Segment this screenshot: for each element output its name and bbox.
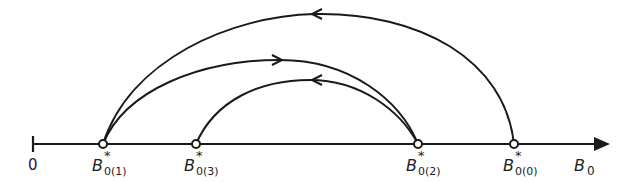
- svg-text:B: B: [406, 156, 417, 175]
- point-b03: [192, 140, 200, 148]
- label-b02: B * 0(2): [406, 148, 441, 178]
- label-b01: B * 0(1): [92, 148, 127, 178]
- axis-label: B 0: [574, 156, 595, 178]
- origin-label: 0: [28, 156, 38, 174]
- svg-text:0(2): 0(2): [418, 165, 441, 178]
- svg-text:0(3): 0(3): [196, 165, 219, 178]
- svg-text:*: *: [515, 148, 522, 163]
- point-b02: [414, 140, 422, 148]
- svg-text:B: B: [503, 156, 514, 175]
- label-b03: B * 0(3): [184, 148, 219, 178]
- svg-text:*: *: [418, 148, 425, 163]
- label-b00: B * 0(0): [503, 148, 538, 178]
- svg-text:0: 0: [587, 164, 595, 178]
- svg-text:*: *: [196, 148, 203, 163]
- svg-text:0(0): 0(0): [515, 165, 538, 178]
- svg-text:0(1): 0(1): [104, 165, 127, 178]
- diagram-canvas: 0 B * 0(1) B * 0(3) B * 0(2) B * 0(0) B …: [0, 0, 619, 183]
- arc-middle: [103, 60, 418, 144]
- arc-inner: [196, 80, 418, 144]
- svg-text:*: *: [104, 148, 111, 163]
- svg-text:B: B: [92, 156, 103, 175]
- svg-text:B: B: [184, 156, 195, 175]
- svg-text:B: B: [574, 156, 585, 175]
- axis-arrowhead-icon: [594, 137, 610, 151]
- arc-outer: [103, 14, 514, 144]
- point-b01: [99, 140, 107, 148]
- point-b00: [510, 140, 518, 148]
